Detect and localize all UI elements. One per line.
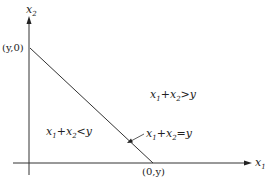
x-intercept-label: (0,y) <box>142 167 165 177</box>
y-intercept-label: (y,0) <box>2 43 24 53</box>
region-below-label: x1+x2<y <box>46 126 92 140</box>
x-axis-label: x1 <box>255 157 266 171</box>
axes-and-line <box>0 0 266 188</box>
boundary-line <box>30 48 153 163</box>
diagram-canvas: x2 x1 (y,0) (0,y) x1+x2>y x1+x2<y x1+x2=… <box>0 0 266 188</box>
boundary-line-label: x1+x2=y <box>146 128 192 142</box>
region-above-label: x1+x2>y <box>150 89 196 103</box>
x-axis-arrow-icon <box>244 161 252 166</box>
line-label-pointer <box>131 134 144 141</box>
y-axis-label: x2 <box>26 4 37 18</box>
